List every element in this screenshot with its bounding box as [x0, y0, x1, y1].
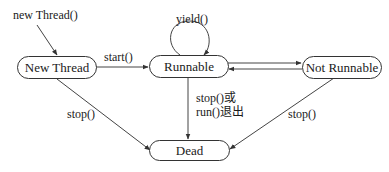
state-runnable: Runnable [149, 55, 229, 78]
state-new-thread-label: New Thread [25, 61, 89, 74]
label-stop-or-run-exit-line2: run()退出 [196, 105, 244, 119]
state-not-runnable-label: Not Runnable [306, 61, 379, 74]
state-new-thread: New Thread [17, 56, 97, 79]
state-not-runnable: Not Runnable [302, 56, 382, 79]
label-start: start() [104, 50, 133, 64]
label-stop-not-runnable: stop() [288, 107, 316, 121]
label-stop-new-thread: stop() [67, 107, 95, 121]
label-stop-or-run-exit-line1: stop()或 [196, 91, 236, 105]
edge-yield-loop [171, 21, 210, 55]
edge-new-thread-init [37, 25, 57, 55]
state-runnable-label: Runnable [164, 60, 214, 73]
state-dead: Dead [149, 140, 230, 161]
label-yield: yield() [176, 12, 208, 26]
edge-not-runnable-to-dead [230, 78, 334, 149]
label-new-thread-call: new Thread() [13, 8, 78, 22]
state-dead-label: Dead [176, 144, 203, 157]
